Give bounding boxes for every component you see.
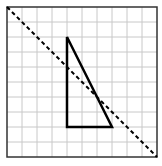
grid-diagram — [0, 0, 162, 166]
